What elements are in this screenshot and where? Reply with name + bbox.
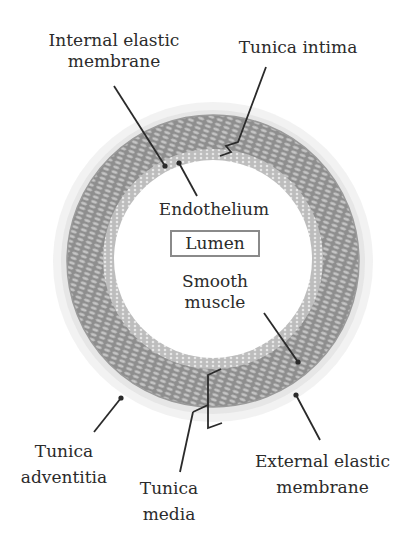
label-line: Internal elastic — [38, 30, 190, 51]
label-tunica-adventitia: Tunica adventitia — [12, 438, 116, 490]
label-internal-elastic-membrane: Internal elastic membrane — [38, 30, 190, 72]
label-line: Tunica — [12, 438, 116, 464]
label-line: Tunica — [132, 475, 206, 501]
label-lumen: Lumen — [170, 230, 260, 257]
lumen-area — [114, 160, 312, 358]
label-line: membrane — [38, 51, 190, 72]
label-line: membrane — [245, 474, 400, 500]
artery-cross-section-diagram: Internal elastic membrane Tunica intima … — [0, 0, 419, 546]
label-external-elastic-membrane: External elastic membrane — [245, 448, 400, 500]
label-line: adventitia — [12, 464, 116, 490]
label-endothelium: Endothelium — [150, 199, 278, 220]
label-tunica-media: Tunica media — [132, 475, 206, 527]
label-line: External elastic — [245, 448, 400, 474]
label-line: muscle — [170, 292, 260, 313]
label-line: media — [132, 501, 206, 527]
label-smooth-muscle: Smooth muscle — [170, 271, 260, 313]
label-tunica-intima: Tunica intima — [228, 37, 368, 58]
label-line: Smooth — [170, 271, 260, 292]
